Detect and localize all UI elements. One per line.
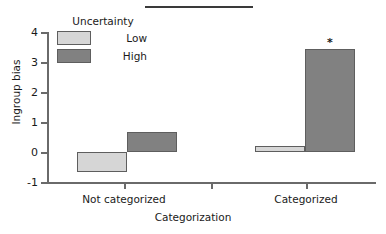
y-tick-label-neg1: -1 [8,177,38,188]
x-tick-middle [211,183,213,189]
x-tick-not-categorized [124,183,126,189]
bar-categorized-high [305,49,355,153]
legend-title: Uncertainty [57,15,149,27]
legend-swatch-low-icon [57,31,91,45]
y-tick-4 [41,32,47,34]
significance-asterisk: * [305,37,355,48]
y-tick-3 [41,62,47,64]
legend-label-low: Low [91,32,149,44]
x-axis-title: Categorization [0,211,386,223]
bar-chart: 4 3 2 1 0 -1 Not categorized Categorized… [0,0,386,234]
bar-not-categorized-low [77,152,127,172]
y-axis-line [47,32,49,183]
y-tick-2 [41,92,47,94]
legend-item-high: High [57,47,149,64]
bar-not-categorized-high [127,132,177,152]
legend-item-low: Low [57,29,149,46]
legend-label-high: High [91,50,149,62]
x-tick-label-not-categorized: Not categorized [64,193,184,205]
x-tick-categorized [306,183,308,189]
legend: Uncertainty Low High [57,15,149,65]
y-tick-label-4: 4 [8,27,38,38]
y-tick-1 [41,122,47,124]
legend-swatch-high-icon [57,49,91,63]
bar-categorized-low [255,146,305,152]
y-axis-title: Ingroup bias [10,52,22,132]
y-tick-neg1 [41,182,47,184]
y-tick-0 [41,152,47,154]
x-tick-label-categorized: Categorized [248,193,364,205]
y-tick-label-0: 0 [8,147,38,158]
